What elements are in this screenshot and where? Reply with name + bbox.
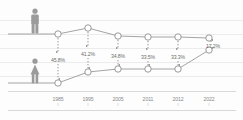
- plot-area: [0, 0, 243, 120]
- x-axis-label-2011: 2011: [143, 96, 154, 102]
- series-markers-men: [55, 25, 212, 41]
- x-axis-label-2022: 2022: [203, 96, 214, 102]
- x-axis-label-2012: 2012: [172, 96, 183, 102]
- chart-container: 45.8% 41.2% 34.8% 33.5% 33.3% 17.2% 1985…: [0, 0, 243, 120]
- x-axis-label-1995: 1995: [82, 96, 93, 102]
- x-axis-label-2005: 2005: [112, 96, 123, 102]
- gap-label: 33.3%: [171, 54, 185, 60]
- gap-label: 45.8%: [51, 57, 65, 63]
- gap-label: 34.8%: [111, 53, 125, 59]
- x-axis-label-1985: 1985: [52, 96, 63, 102]
- gap-label: 17.2%: [206, 43, 220, 49]
- x-axis-ticks: [58, 103, 209, 106]
- gap-label: 41.2%: [81, 51, 95, 57]
- series-markers-women: [55, 47, 212, 86]
- gap-label: 33.5%: [141, 54, 155, 60]
